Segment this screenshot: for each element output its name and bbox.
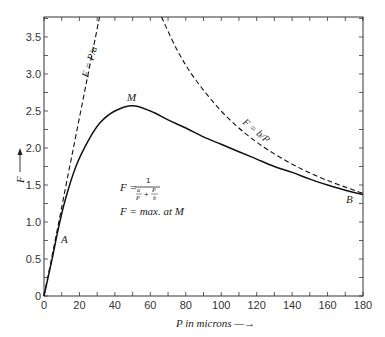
chart: 02040608010012014016018000.51.01.52.02.5… (0, 0, 385, 337)
formula-den-a: a (137, 187, 140, 193)
y-tick-label: 2.5 (26, 105, 41, 117)
formula-den-p1: P (135, 195, 140, 201)
x-tick-label: 40 (109, 299, 121, 311)
formula-block: F = 1 a P + P b F = max. at M (119, 176, 185, 217)
x-tick-label: 160 (318, 299, 336, 311)
x-tick-label: 180 (354, 299, 372, 311)
x-tick-label: 120 (247, 299, 265, 311)
curve-f-b-over-p (162, 17, 364, 193)
formula-lhs: F = (119, 181, 137, 193)
y-tick-label: 3.0 (26, 68, 41, 80)
formula-max-note: F = max. at M (119, 205, 185, 217)
y-tick-label: 1.0 (26, 216, 41, 228)
y-axis-arrowhead-icon (18, 148, 23, 155)
y-axis-label-group: F (14, 148, 26, 184)
point-label-m: M (126, 91, 137, 103)
x-axis-label: P in microns —→ (175, 317, 255, 329)
y-tick-label: 1.5 (26, 179, 41, 191)
line-label-b-over-p: F = b/P (240, 115, 272, 144)
x-tick-label: 20 (73, 299, 85, 311)
formula-den-plus: + (144, 190, 149, 199)
formula-numerator: 1 (146, 176, 151, 185)
y-tick-label: 3.5 (26, 31, 41, 43)
x-tick-label: 100 (212, 299, 230, 311)
formula-den-b: b (153, 195, 156, 201)
y-axis-label: F (14, 176, 26, 184)
x-tick-label: 0 (41, 299, 47, 311)
formula-den-p2: P (151, 187, 156, 193)
x-tick-label: 60 (144, 299, 156, 311)
point-label-a: A (60, 233, 68, 245)
y-tick-label: 2.0 (26, 142, 41, 154)
curve-f-combined (44, 106, 363, 296)
line-label-p-over-a: F = P/a (79, 45, 99, 80)
x-tick-label: 80 (180, 299, 192, 311)
point-label-b: B (346, 193, 353, 205)
y-tick-label: 0.5 (26, 253, 41, 265)
y-tick-label: 0 (35, 290, 41, 302)
x-tick-label: 140 (283, 299, 301, 311)
